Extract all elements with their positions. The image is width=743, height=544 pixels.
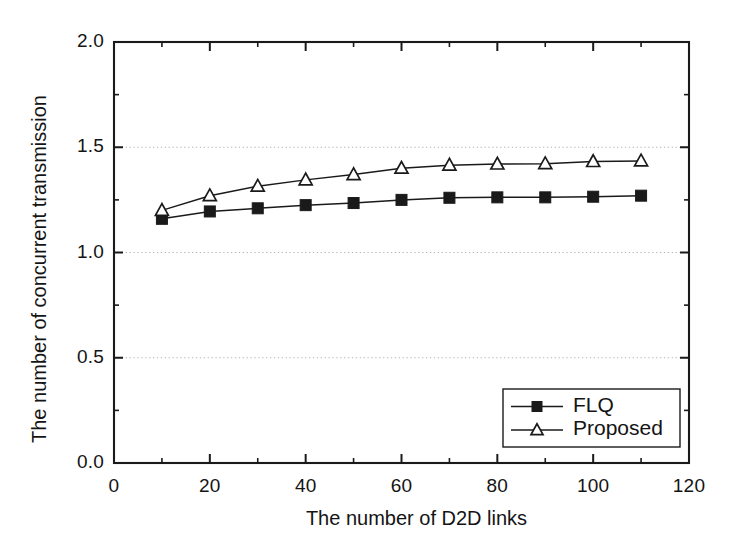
y-tick-label-2: 1.0 [56, 241, 104, 263]
legend-label-proposed: Proposed [573, 416, 663, 440]
x-tick-label-5: 100 [563, 475, 623, 497]
datapoint-proposed-80 [491, 157, 504, 169]
datapoint-proposed-70 [443, 158, 456, 170]
legend-label-flq: FLQ [573, 393, 614, 417]
x-axis-title: The number of D2D links [45, 507, 743, 530]
datapoint-flq-70 [444, 192, 455, 203]
y-axis-title: The number of concurrent transmission [28, 95, 51, 443]
chart-figure: 0.0 0.5 1.0 1.5 2.0 0 20 40 60 80 100 12… [0, 0, 743, 544]
y-tick-label-4: 2.0 [56, 30, 104, 52]
datapoint-flq-60 [396, 194, 407, 205]
datapoint-proposed-100 [587, 155, 600, 167]
datapoint-flq-90 [540, 192, 551, 203]
datapoint-flq-30 [252, 203, 263, 214]
datapoint-flq-80 [492, 192, 503, 203]
x-tick-label-0: 0 [84, 475, 144, 497]
y-tick-label-1: 0.5 [56, 346, 104, 368]
y-tick-label-3: 1.5 [56, 135, 104, 157]
x-tick-label-4: 80 [467, 475, 527, 497]
datapoint-flq-50 [348, 198, 359, 209]
datapoint-flq-100 [588, 191, 599, 202]
line-chart-canvas [0, 0, 743, 544]
x-tick-label-3: 60 [372, 475, 432, 497]
x-tick-label-2: 40 [276, 475, 336, 497]
x-tick-label-6: 120 [659, 475, 719, 497]
legend-sample-marker-flq [532, 402, 542, 412]
datapoint-flq-110 [636, 190, 647, 201]
x-tick-label-1: 20 [180, 475, 240, 497]
datapoint-flq-20 [204, 206, 215, 217]
y-tick-label-0: 0.0 [56, 451, 104, 473]
datapoint-proposed-110 [635, 154, 648, 166]
datapoint-flq-40 [300, 200, 311, 211]
